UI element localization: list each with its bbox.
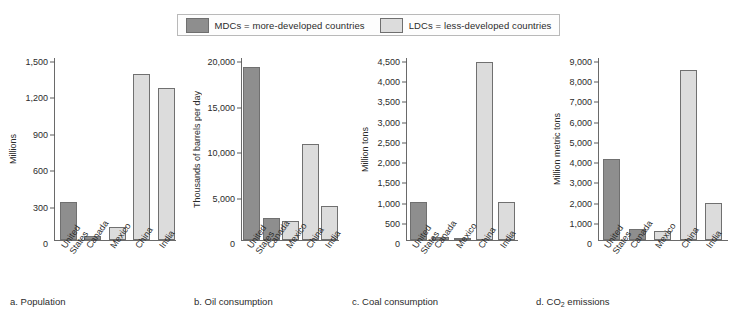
y-axis-tick: 5,000 xyxy=(569,138,599,147)
y-axis-tick-label: 1,000 xyxy=(377,199,400,208)
y-axis-tick-label: 5,000 xyxy=(212,194,235,203)
y-axis-tick-mark xyxy=(50,134,55,135)
bar-slot xyxy=(105,58,130,240)
bar-slot xyxy=(701,58,727,240)
y-axis-ticks: 03006009001,2001,500 xyxy=(2,52,55,257)
y-axis-tick: 2,000 xyxy=(377,159,407,168)
bar-slot xyxy=(625,58,651,240)
y-axis-tick-label: 0 xyxy=(43,240,48,249)
y-axis-tick: 4,000 xyxy=(377,78,407,87)
y-axis-tick: 10,000 xyxy=(207,149,242,158)
bar-slot xyxy=(407,58,429,240)
chart-legend: MDCs = more-developed countries LDCs = l… xyxy=(177,14,560,36)
bar-slot xyxy=(242,58,262,240)
bar-slot xyxy=(429,58,451,240)
bar-slot xyxy=(56,58,81,240)
bar-slot xyxy=(473,58,495,240)
panel-caption-prefix: b. xyxy=(194,296,205,307)
bar[interactable] xyxy=(133,74,150,240)
y-axis-tick-label: 1,000 xyxy=(569,219,592,228)
y-axis-tick-label: 1,500 xyxy=(377,179,400,188)
legend-swatch-mdc-icon xyxy=(186,18,209,33)
chart-panel-population: Millions03006009001,2001,500UnitedStates… xyxy=(2,52,184,329)
y-axis-tick: 1,000 xyxy=(569,219,599,228)
panel-caption: b. Oil consumption xyxy=(194,296,273,307)
y-axis-tick: 3,500 xyxy=(377,98,407,107)
y-axis-tick: 0 xyxy=(587,240,599,249)
y-axis-tick-label: 7,000 xyxy=(569,98,592,107)
y-axis-tick-label: 2,000 xyxy=(569,199,592,208)
y-axis-tick-label: 2,500 xyxy=(377,138,400,147)
legend-entry-ldc: LDCs = less-developed countries xyxy=(380,18,552,33)
y-axis-tick-label: 4,000 xyxy=(569,159,592,168)
bar-slot xyxy=(301,58,321,240)
chart-panel-co2-emissions: Million metric tons01,0002,0003,0004,000… xyxy=(528,52,737,329)
page-body-text-fragment xyxy=(0,320,737,329)
y-axis-tick: 9,000 xyxy=(569,58,599,67)
y-axis-tick-label: 1,200 xyxy=(25,94,48,103)
bar[interactable] xyxy=(243,67,260,240)
bar[interactable] xyxy=(158,88,175,240)
panel-caption: c. Coal consumption xyxy=(352,296,438,307)
y-axis-tick: 2,000 xyxy=(569,199,599,208)
panel-caption-text: Coal consumption xyxy=(362,296,438,307)
bar-slot xyxy=(451,58,473,240)
bar-series xyxy=(599,58,727,240)
y-axis-tick-label: 2,000 xyxy=(377,159,400,168)
y-axis-tick-label: 10,000 xyxy=(207,149,235,158)
y-axis-tick: 5,000 xyxy=(212,194,242,203)
legend-entry-mdc: MDCs = more-developed countries xyxy=(186,18,365,33)
plot-area: Millions03006009001,2001,500UnitedStates… xyxy=(2,52,184,257)
y-axis-ticks: 05001,0001,5002,0002,5003,0003,5004,0004… xyxy=(344,52,407,257)
bar-slot xyxy=(599,58,625,240)
y-axis-tick: 1,200 xyxy=(25,94,55,103)
y-axis-tick-label: 15,000 xyxy=(207,103,235,112)
y-axis-ticks: 01,0002,0003,0004,0005,0006,0007,0008,00… xyxy=(528,52,599,257)
y-axis-tick-label: 0 xyxy=(230,240,235,249)
panel-caption: a. Population xyxy=(10,296,65,307)
panel-caption-prefix: c. xyxy=(352,296,362,307)
plot-area: Thousands of barrels per day05,00010,000… xyxy=(184,52,344,257)
y-axis-tick-label: 900 xyxy=(33,130,48,139)
bar[interactable] xyxy=(680,70,697,240)
chart-panel-coal-consumption: Million tons05001,0001,5002,0002,5003,00… xyxy=(344,52,528,329)
panel-caption-prefix: a. xyxy=(10,296,21,307)
legend-swatch-ldc-icon xyxy=(380,18,403,33)
y-axis-tick-label: 1,500 xyxy=(25,58,48,67)
y-axis-tick-mark xyxy=(402,244,407,245)
bar-slot xyxy=(130,58,155,240)
y-axis-tick-label: 8,000 xyxy=(569,78,592,87)
panel-caption-text: CO xyxy=(547,296,561,307)
bar[interactable] xyxy=(476,62,493,240)
y-axis-tick-label: 0 xyxy=(587,240,592,249)
panel-caption-prefix: d. xyxy=(536,296,547,307)
y-axis-tick: 7,000 xyxy=(569,98,599,107)
y-axis-tick-label: 0 xyxy=(395,240,400,249)
y-axis-tick-label: 300 xyxy=(33,203,48,212)
legend-label-ldc: LDCs = less-developed countries xyxy=(409,20,552,31)
bar-slot xyxy=(650,58,676,240)
plot-area: Million metric tons01,0002,0003,0004,000… xyxy=(528,52,737,257)
bar-slot xyxy=(320,58,340,240)
y-axis-tick: 0 xyxy=(395,240,407,249)
bar-slot xyxy=(281,58,301,240)
y-axis-tick-label: 5,000 xyxy=(569,138,592,147)
bar-slot xyxy=(81,58,106,240)
y-axis-tick-label: 4,000 xyxy=(377,78,400,87)
bar-slot xyxy=(154,58,179,240)
y-axis-tick-label: 4,500 xyxy=(377,58,400,67)
panel-caption-text: Oil consumption xyxy=(205,296,273,307)
y-axis-ticks: 05,00010,00015,00020,000 xyxy=(184,52,242,257)
y-axis-tick: 8,000 xyxy=(569,78,599,87)
y-axis-tick: 2,500 xyxy=(377,138,407,147)
bar-series xyxy=(56,58,179,240)
y-axis-tick-label: 9,000 xyxy=(569,58,592,67)
legend-label-mdc: MDCs = more-developed countries xyxy=(215,20,365,31)
y-axis-tick: 0 xyxy=(230,240,242,249)
y-axis-tick: 3,000 xyxy=(377,118,407,127)
panel-caption-suffix: emissions xyxy=(565,296,610,307)
y-axis-tick-label: 600 xyxy=(33,167,48,176)
bar-series xyxy=(242,58,340,240)
bar-slot xyxy=(495,58,517,240)
y-axis-tick-mark xyxy=(594,244,599,245)
